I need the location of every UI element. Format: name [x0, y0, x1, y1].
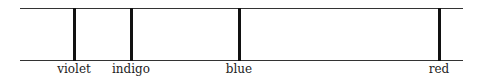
spectrum-diagram: violet indigo blue red [0, 0, 482, 82]
label-violet: violet [57, 62, 91, 76]
label-red: red [429, 62, 450, 76]
label-indigo: indigo [112, 62, 150, 76]
label-blue: blue [226, 62, 252, 76]
spectral-line-blue [238, 8, 241, 61]
spectral-line-violet [73, 8, 76, 61]
bottom-border-line [20, 60, 463, 61]
spectral-line-red [438, 8, 441, 61]
spectral-line-indigo [130, 8, 133, 61]
top-border-line [20, 8, 463, 9]
